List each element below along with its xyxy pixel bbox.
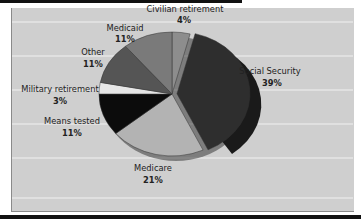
label-civilian-retirement: Civilian retirement — [147, 4, 225, 14]
pct-medicare: 21% — [143, 175, 164, 185]
label-military-retirement: Military retirement — [21, 84, 99, 94]
pct-medicaid: 11% — [115, 34, 136, 44]
label-medicare: Medicare — [134, 163, 172, 173]
label-other: Other — [81, 47, 105, 57]
pct-other: 11% — [83, 59, 104, 69]
pct-social-security: 39% — [262, 78, 283, 88]
pct-military-retirement: 3% — [53, 96, 68, 106]
pie-chart: Civilian retirement 4% Medicaid 11% Othe… — [0, 0, 361, 219]
pct-means-tested: 11% — [62, 128, 83, 138]
pct-civilian-retirement: 4% — [177, 15, 192, 25]
label-medicaid: Medicaid — [106, 23, 143, 33]
label-means-tested: Means tested — [44, 116, 100, 126]
label-social-security: Social Security — [239, 66, 300, 76]
